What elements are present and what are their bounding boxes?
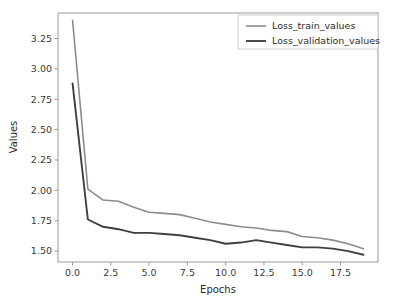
- x-tick-label: 12.5: [253, 267, 274, 278]
- x-axis-title: Epochs: [200, 284, 236, 295]
- x-tick-label: 0.0: [65, 267, 80, 278]
- y-tick-label: 3.25: [31, 33, 52, 44]
- y-tick-label: 3.00: [31, 63, 52, 74]
- y-axis-title: Values: [8, 121, 19, 154]
- legend-entry-label[interactable]: Loss_train_values: [272, 20, 355, 31]
- plot-area-background: [58, 13, 378, 262]
- x-axis-ticks: 0.02.55.07.510.012.515.017.5: [65, 262, 351, 278]
- x-tick-label: 15.0: [292, 267, 313, 278]
- line-chart: 1.501.752.002.252.502.753.003.25 0.02.55…: [0, 0, 403, 304]
- legend-entry-label[interactable]: Loss_validation_values: [272, 35, 380, 46]
- y-tick-label: 2.25: [31, 154, 52, 165]
- y-tick-label: 1.75: [31, 215, 52, 226]
- y-tick-label: 2.00: [31, 185, 52, 196]
- x-tick-label: 10.0: [215, 267, 236, 278]
- x-tick-label: 5.0: [142, 267, 157, 278]
- y-tick-label: 2.75: [31, 94, 52, 105]
- y-axis-ticks: 1.501.752.002.252.502.753.003.25: [31, 33, 58, 257]
- x-tick-label: 17.5: [330, 267, 351, 278]
- y-tick-label: 1.50: [31, 245, 52, 256]
- y-tick-label: 2.50: [31, 124, 52, 135]
- figure-canvas: 1.501.752.002.252.502.753.003.25 0.02.55…: [0, 0, 403, 304]
- chart-legend[interactable]: Loss_train_valuesLoss_validation_values: [238, 15, 380, 49]
- x-tick-label: 2.5: [103, 267, 118, 278]
- x-tick-label: 7.5: [180, 267, 195, 278]
